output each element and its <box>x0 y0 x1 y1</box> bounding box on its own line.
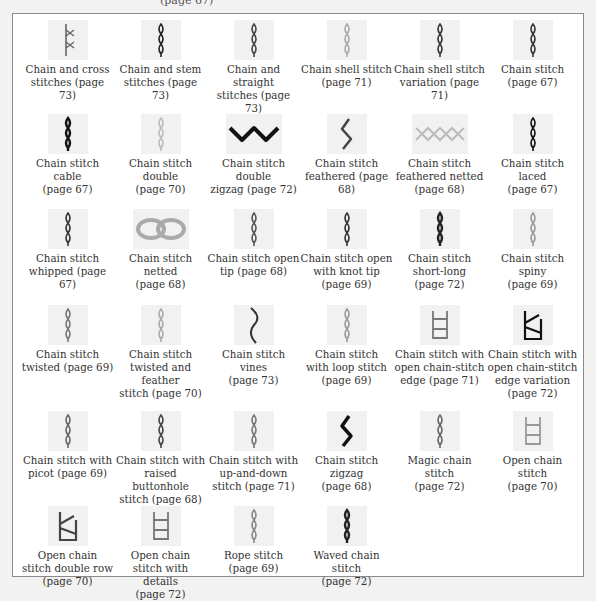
straight-chain-icon <box>234 20 274 60</box>
stitch-label-line: Chain stitch with <box>487 348 579 361</box>
stitch-label-line: Chain stitch <box>22 348 114 361</box>
stitch-label-line: Chain stitch <box>115 348 207 361</box>
stitch-item: Chain stitchshort-long(page 72) <box>393 207 486 303</box>
stitch-item: Chain stitch withpicot (page 69) <box>21 409 114 504</box>
stitch-label-line: stitch with details <box>115 562 207 588</box>
raised-buttonhole-icon <box>141 411 181 451</box>
stitch-label: Chain stitch(page 67) <box>487 63 579 89</box>
laced-chain-icon <box>513 114 553 154</box>
stitch-label: Chain stitchshort-long(page 72) <box>394 252 486 291</box>
stitch-label: Chain stitch cable(page 67) <box>22 157 114 196</box>
stitch-label-line: Chain stitch spiny <box>487 252 579 278</box>
stitch-label-line: (page 71) <box>301 76 393 89</box>
stitch-label-line: variation (page 71) <box>394 76 486 102</box>
stitch-label: Chain stitchwith loop stitch(page 69) <box>301 348 393 387</box>
stitch-label-line: Chain stitch <box>301 348 393 361</box>
stitch-label-line: twisted and feather <box>115 361 207 387</box>
short-long-chain-icon <box>420 209 460 249</box>
twisted-chain-icon <box>48 305 88 345</box>
stitch-label-line: Chain stitch open <box>301 252 393 265</box>
stitch-label: Chain stitch withraised buttonholestitch… <box>115 454 207 506</box>
stitch-label: Chain stitchtwisted (page 69) <box>22 348 114 374</box>
stitch-label-line: twisted (page 69) <box>22 361 114 374</box>
stitch-label-line: Chain stitch <box>22 252 114 265</box>
stitch-label: Chain shell stitchvariation (page 71) <box>394 63 486 102</box>
stitch-label-line: (page 69) <box>301 374 393 387</box>
shell-chain-icon <box>327 20 367 60</box>
stitch-item: Chain stitch withraised buttonholestitch… <box>114 409 207 504</box>
stitch-label-line: up-and-down <box>208 467 300 480</box>
stitch-item: Chain stitch withopen chain-stitchedge v… <box>486 303 579 409</box>
stitch-label-line: Chain stitch cable <box>22 157 114 183</box>
stitch-label-line: Open chain <box>115 549 207 562</box>
stitch-item: Chain stitchwhipped (page 67) <box>21 207 114 303</box>
stitch-label-line: Chain stitch <box>301 157 393 170</box>
stitch-label-line: Chain stitch double <box>115 157 207 183</box>
stitch-label: Magic chain stitch(page 72) <box>394 454 486 493</box>
stitch-label-line: (page 72) <box>115 588 207 601</box>
spiny-chain-icon <box>513 209 553 249</box>
stitch-label: Chain stitch double(page 70) <box>115 157 207 196</box>
stitch-label: Chain stitch opentip (page 68) <box>208 252 300 278</box>
waved-chain-icon <box>327 506 367 546</box>
stitch-label: Chain stitch withup-and-downstitch (page… <box>208 454 300 493</box>
knot-tip-chain-icon <box>327 209 367 249</box>
up-and-down-icon <box>234 411 274 451</box>
stitch-item: Chain stitchfeathered (page 68) <box>300 112 393 207</box>
stitch-label-line: Chain and cross <box>22 63 114 76</box>
stitch-label-line: (page 70) <box>22 575 114 588</box>
stitch-label: Chain stitch withopen chain-stitchedge (… <box>394 348 486 387</box>
stitch-item: Chain stitch doublezigzag (page 72) <box>207 112 300 207</box>
stitch-label-line: (page 69) <box>487 278 579 291</box>
stitch-label-line: Open chain <box>22 549 114 562</box>
stitch-label-line: (page 69) <box>208 562 300 575</box>
stitch-item: Chain stitch openwith knot tip(page 69) <box>300 207 393 303</box>
stitch-label: Chain and straightstitches (page 73) <box>208 63 300 115</box>
stitch-label: Chain stitchfeathered (page 68) <box>301 157 393 196</box>
stitch-label-line: zigzag (page 72) <box>208 183 300 196</box>
stitch-label-line: Chain stitch laced <box>487 157 579 183</box>
stitch-label: Chain stitch vines(page 73) <box>208 348 300 387</box>
stitch-label-line: Chain stitch with <box>208 454 300 467</box>
picot-chain-icon <box>48 411 88 451</box>
stitch-label-line: (page 73) <box>208 374 300 387</box>
stitch-label-line: (page 72) <box>394 480 486 493</box>
open-edge-variation-icon <box>513 305 553 345</box>
stitch-label-line: with knot tip <box>301 265 393 278</box>
stitch-label-line: Magic chain stitch <box>394 454 486 480</box>
stitch-index-frame: Chain and crossstitches (page 73)Chain a… <box>12 13 584 577</box>
open-double-row-icon <box>48 506 88 546</box>
double-zigzag-icon <box>226 114 282 154</box>
stitch-label: Open chainstitch double row(page 70) <box>22 549 114 588</box>
stitch-label-line: Chain stitch vines <box>208 348 300 374</box>
stitch-label-line: (page 67) <box>22 183 114 196</box>
stitch-label-line: raised buttonhole <box>115 467 207 493</box>
stitch-label-line: Chain shell stitch <box>394 63 486 76</box>
stitch-label-line: feathered (page 68) <box>301 170 393 196</box>
vines-chain-icon <box>234 305 274 345</box>
stitch-label-line: Chain shell stitch <box>301 63 393 76</box>
stitch-label-line: (page 67) <box>487 76 579 89</box>
stitch-label: Chain and crossstitches (page 73) <box>22 63 114 102</box>
stitch-item: Chain stitch opentip (page 68) <box>207 207 300 303</box>
stitch-label: Chain stitch zigzag(page 68) <box>301 454 393 493</box>
stitch-label-line: Chain stitch with <box>22 454 114 467</box>
stitch-label-line: edge (page 71) <box>394 374 486 387</box>
stitch-item: Chain stitch withup-and-downstitch (page… <box>207 409 300 504</box>
stitch-label-line: (page 68) <box>301 480 393 493</box>
stitch-item: Chain stitch netted(page 68) <box>114 207 207 303</box>
stitch-label-line: open chain-stitch <box>394 361 486 374</box>
stitch-label: Rope stitch(page 69) <box>208 549 300 575</box>
stitch-label-line: Chain and straight <box>208 63 300 89</box>
stitch-label: Chain stitch withpicot (page 69) <box>22 454 114 480</box>
stitch-label-line: Chain and stem <box>115 63 207 76</box>
stitch-label: Chain and stemstitches (page 73) <box>115 63 207 102</box>
stitch-label: Chain stitch doublezigzag (page 72) <box>208 157 300 196</box>
chain-stitch-icon <box>513 20 553 60</box>
stitch-label-line: (page 72) <box>394 278 486 291</box>
stitch-item: Open chain stitch(page 70) <box>486 409 579 504</box>
twisted-feather-icon <box>141 305 181 345</box>
stitch-item: Chain stitch cable(page 67) <box>21 112 114 207</box>
stitch-label-line: short-long <box>394 265 486 278</box>
stitch-label-line: picot (page 69) <box>22 467 114 480</box>
